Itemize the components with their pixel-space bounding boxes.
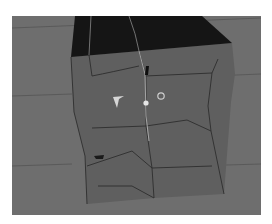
3d-viewport[interactable]: 3D viewport [12,16,261,215]
viewport-canvas[interactable] [12,16,261,215]
pivot-point[interactable] [143,100,148,105]
